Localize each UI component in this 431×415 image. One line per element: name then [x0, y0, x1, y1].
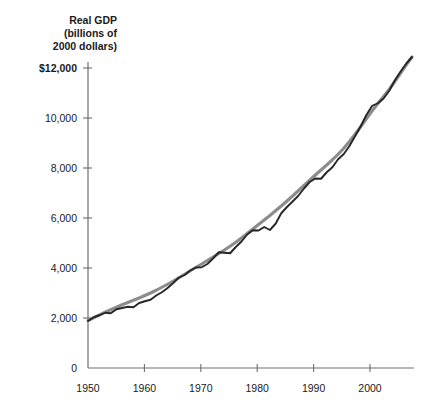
chart-title-line-2: (billions of	[64, 27, 118, 39]
y-tick-label-4000: 4,000	[51, 262, 77, 274]
y-tick-labels: $12,000 10,000 8,000 6,000 4,000 2,000 0	[39, 62, 77, 374]
series-line-real-gdp	[88, 57, 412, 321]
real-gdp-chart: Real GDP (billions of 2000 dollars) $12,…	[0, 0, 431, 415]
x-tick-label-1980: 1980	[246, 382, 270, 394]
chart-title-line-3: 2000 dollars)	[53, 40, 117, 52]
y-tick-label-8000: 8,000	[51, 162, 77, 174]
chart-title-block: Real GDP (billions of 2000 dollars)	[53, 14, 118, 52]
y-tick-label-6000: 6,000	[51, 212, 77, 224]
x-tick-label-1960: 1960	[133, 382, 157, 394]
x-tick-labels: 1950 1960 1970 1980 1990 2000	[76, 382, 382, 394]
series-line-trend	[88, 57, 412, 321]
y-tick-label-12000: $12,000	[39, 62, 77, 74]
plot-area	[88, 57, 412, 321]
x-tick-label-2000: 2000	[358, 382, 382, 394]
x-axis: 1950 1960 1970 1980 1990 2000	[76, 364, 414, 394]
y-axis: $12,000 10,000 8,000 6,000 4,000 2,000 0	[39, 62, 92, 374]
y-tick-label-0: 0	[71, 362, 77, 374]
y-tick-label-2000: 2,000	[51, 312, 77, 324]
x-tick-label-1970: 1970	[189, 382, 213, 394]
y-tick-label-10000: 10,000	[45, 112, 77, 124]
chart-title-line-1: Real GDP	[69, 14, 117, 26]
x-tick-label-1990: 1990	[302, 382, 326, 394]
x-tick-label-1950: 1950	[76, 382, 100, 394]
